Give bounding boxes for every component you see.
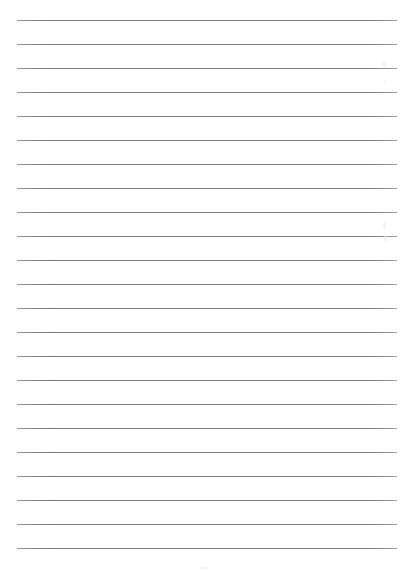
ruled-line <box>17 212 397 213</box>
ruled-line <box>17 356 397 357</box>
ruled-line <box>17 116 397 117</box>
ruled-line <box>17 428 397 429</box>
scan-artifact <box>382 62 386 67</box>
ruled-line <box>17 380 397 381</box>
ruled-line <box>17 188 397 189</box>
ruled-line <box>17 20 397 21</box>
ruled-line <box>17 476 397 477</box>
scan-artifact <box>383 222 386 230</box>
scan-artifact <box>383 80 386 83</box>
lined-paper-sheet <box>0 0 417 571</box>
ruled-line <box>17 260 397 261</box>
ruled-line <box>17 284 397 285</box>
ruled-line <box>17 452 397 453</box>
scan-artifact <box>384 236 387 242</box>
ruled-line <box>17 68 397 69</box>
ruled-line <box>17 524 397 525</box>
scan-artifact <box>200 567 210 569</box>
ruled-line <box>17 140 397 141</box>
ruled-line <box>17 308 397 309</box>
ruled-line <box>17 332 397 333</box>
ruled-line <box>17 404 397 405</box>
ruled-line <box>17 44 397 45</box>
ruled-line <box>17 92 397 93</box>
ruled-line <box>17 548 397 549</box>
ruled-line <box>17 164 397 165</box>
ruled-line <box>17 236 397 237</box>
ruled-line <box>17 500 397 501</box>
